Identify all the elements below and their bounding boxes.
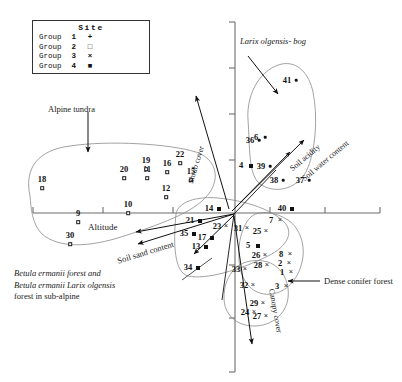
data-point-open-square-12 (164, 195, 168, 199)
data-point-filled-square-21 (198, 219, 202, 223)
data-point-cross-23: × (224, 222, 228, 230)
data-point-cross-25: × (264, 227, 268, 235)
betula-line-3: forest in sub-alpine (14, 291, 115, 303)
data-point-label-31: 31 (234, 223, 243, 233)
betula-line-2: Betula ermanii Larix olgensis (14, 280, 115, 290)
annotation-betula-ermanii-forest: Betula ermanii forest and Betula ermanii… (14, 268, 115, 303)
data-point-filled-square-40 (290, 207, 294, 211)
data-point-label-34: 34 (184, 262, 193, 272)
data-point-filled-square-5 (256, 244, 260, 248)
data-point-cross-28: × (265, 261, 269, 269)
data-point-label-25: 25 (253, 226, 262, 236)
data-point-filled-square-4 (249, 164, 253, 168)
data-point-cross-27: × (264, 312, 268, 320)
data-point-open-square-18 (40, 186, 44, 190)
data-point-cross-3: × (284, 282, 288, 290)
data-point-label-36: 36 (246, 135, 255, 145)
data-point-label-39: 39 (257, 161, 266, 171)
data-point-cross-31: × (245, 224, 249, 232)
env-label-altitude: Altitude (88, 222, 118, 232)
data-point-label-16: 16 (163, 158, 172, 168)
ordination-biplot-figure: Site Group 1 + Group 2 □ Group 3 × Group… (0, 0, 402, 382)
data-point-filled-square-34 (196, 266, 200, 270)
data-point-cross-7: × (278, 216, 282, 224)
data-point-filled-square-13 (204, 245, 208, 249)
data-point-label-18: 18 (38, 174, 47, 184)
annotation-larix-bog: Larix olgensis- bog (240, 36, 306, 46)
data-point-label-4: 4 (239, 160, 243, 170)
data-point-cross-2: × (287, 259, 291, 267)
data-point-open-square-10 (126, 211, 130, 215)
data-point-cross-29: × (261, 299, 265, 307)
annotation-alpine-tundra: Alpine tundra (48, 104, 95, 114)
data-point-label-27: 27 (253, 311, 262, 321)
data-point-label-33: 33 (232, 264, 241, 274)
data-point-open-square-22 (178, 161, 182, 165)
data-point-label-24: 24 (241, 307, 250, 317)
data-point-label-40: 40 (278, 203, 287, 213)
annotation-larix-bog-text: Larix olgensis- bog (240, 36, 306, 46)
data-point-label-9: 9 (76, 208, 80, 218)
data-point-label-28: 28 (254, 260, 263, 270)
data-point-dot-38 (282, 179, 285, 182)
data-point-label-1: 1 (280, 267, 284, 277)
annotation-dense-conifer-forest: Dense conifer forest (324, 276, 393, 286)
data-point-filled-square-14 (217, 207, 221, 211)
data-point-label-14: 14 (205, 203, 214, 213)
data-point-dot-6 (264, 136, 267, 139)
data-point-label-30: 30 (66, 230, 75, 240)
data-point-label-35: 35 (180, 228, 189, 238)
data-point-dot-41 (295, 79, 298, 82)
data-point-label-32: 32 (240, 280, 249, 290)
data-point-open-square-11 (145, 176, 149, 180)
data-point-label-5: 5 (246, 240, 250, 250)
data-point-label-38: 38 (270, 175, 279, 185)
data-point-dot-36 (258, 139, 261, 142)
data-point-label-22: 22 (176, 149, 185, 159)
data-point-cross-26: × (263, 251, 267, 259)
data-point-label-19: 19 (142, 155, 151, 165)
data-point-label-10: 10 (124, 199, 133, 209)
data-point-label-20: 20 (120, 164, 129, 174)
data-point-cross-1: × (289, 268, 293, 276)
data-point-open-square-19 (144, 167, 148, 171)
data-point-cross-32: × (251, 281, 255, 289)
data-point-label-7: 7 (269, 215, 273, 225)
data-point-label-23: 23 (213, 221, 222, 231)
data-point-label-12: 12 (162, 183, 171, 193)
data-point-open-square-30 (68, 242, 72, 246)
data-point-label-26: 26 (252, 250, 261, 260)
data-point-open-square-16 (165, 170, 169, 174)
data-point-label-41: 41 (283, 75, 292, 85)
data-point-filled-square-35 (192, 232, 196, 236)
data-point-cross-8: × (288, 250, 292, 258)
data-point-filled-square-17 (210, 236, 214, 240)
data-point-cross-33: × (243, 265, 247, 273)
data-point-label-13: 13 (192, 241, 201, 251)
data-point-dot-39 (269, 165, 272, 168)
data-point-open-square-9 (76, 220, 80, 224)
data-point-label-21: 21 (186, 215, 195, 225)
data-point-open-square-20 (122, 176, 126, 180)
betula-line-1: Betula ermanii forest and (14, 268, 101, 278)
scatter-points-layer: 41636393738189301011201916221512×7×8×2×1… (0, 0, 402, 382)
